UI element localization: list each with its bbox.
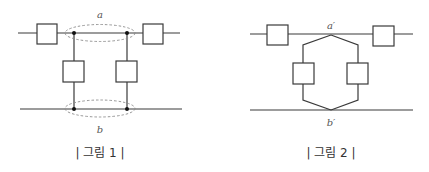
figure-1: a b | 그림 1 | — [18, 9, 182, 160]
fig1-left-parallel-box — [63, 61, 84, 82]
fig2-left-branch — [303, 35, 331, 64]
fig1-node-top-left — [72, 31, 76, 35]
fig1-top-right-box — [143, 24, 163, 44]
fig2-label-a-prime: a′ — [327, 20, 336, 31]
fig1-label-b: b — [97, 124, 103, 135]
fig1-node-bottom-left — [72, 107, 76, 111]
fig1-caption: | 그림 1 | — [75, 146, 124, 160]
fig2-label-b-prime: b′ — [327, 117, 336, 128]
fig1-node-top-right — [125, 31, 129, 35]
fig2-top-right-box — [373, 26, 394, 46]
fig1-node-bottom-right — [125, 107, 129, 111]
fig2-caption: | 그림 2 | — [306, 146, 355, 160]
figure-2: a′ b′ | 그림 2 | — [250, 20, 413, 160]
fig2-left-branch-lower — [303, 84, 331, 110]
fig1-label-a: a — [97, 9, 103, 20]
fig2-right-branch — [331, 35, 358, 64]
circuit-diagrams: a b | 그림 1 | a′ b′ | 그림 2 | — [0, 0, 429, 172]
fig2-top-left-box — [267, 25, 288, 45]
fig2-right-branch-lower — [331, 84, 358, 110]
fig1-right-parallel-box — [116, 61, 137, 82]
fig2-left-parallel-box — [293, 63, 314, 84]
fig1-top-left-box — [37, 24, 57, 44]
fig2-right-parallel-box — [347, 63, 368, 84]
